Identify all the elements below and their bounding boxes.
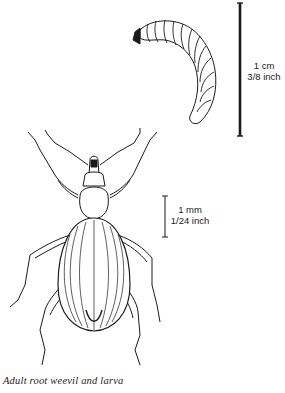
larva-drawing (133, 20, 216, 124)
larva-scale-label: 1 cm 3/8 inch (244, 60, 284, 82)
adult-scale-metric: 1 mm (166, 204, 214, 215)
adult-scale-imperial: 1/24 inch (166, 215, 214, 226)
larva-scale-metric: 1 cm (244, 60, 284, 71)
larva-scale-imperial: 3/8 inch (244, 71, 284, 82)
figure-caption: Adult root weevil and larva (3, 375, 124, 386)
larva-scale-bar (237, 3, 243, 136)
weevil-illustration (0, 0, 285, 393)
adult-scale-label: 1 mm 1/24 inch (166, 204, 214, 226)
adult-weevil-drawing (10, 128, 160, 365)
